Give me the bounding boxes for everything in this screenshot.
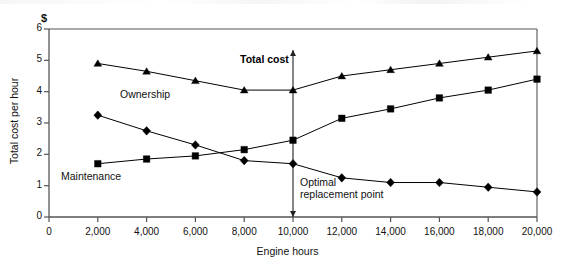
y-tick-label: 6: [18, 22, 42, 34]
x-tick-label: 6,000: [168, 226, 222, 238]
x-tick-label: 12,000: [315, 226, 369, 238]
x-tick-label: 2,000: [71, 226, 125, 238]
y-tick-label: 3: [18, 116, 42, 128]
series-label-ownership: Ownership: [120, 88, 170, 100]
x-tick-label: 0: [22, 226, 76, 238]
optimal-point-arrowhead: [290, 211, 296, 217]
data-point-diamond: [533, 188, 541, 197]
y-tick-label: 4: [18, 85, 42, 97]
data-point-square: [339, 115, 346, 122]
data-point-square: [143, 156, 150, 163]
data-point-square: [485, 87, 492, 94]
data-point-square: [290, 137, 297, 144]
data-point-square: [436, 95, 443, 102]
optimal-point-arrowhead-top: [290, 50, 296, 56]
y-tick-label: 0: [18, 210, 42, 222]
data-point-triangle: [533, 47, 541, 54]
x-tick-label: 4,000: [120, 226, 174, 238]
annotation-optimal-line1: Optimal: [300, 176, 336, 188]
annotation-optimal-line2: replacement point: [300, 188, 415, 200]
series-layer: [94, 47, 541, 196]
y-tick-label: 1: [18, 179, 42, 191]
series-total-cost: [94, 47, 541, 93]
chart-figure: $ Total cost per hour Engine hours Total…: [0, 0, 575, 267]
annotation-layer: [290, 50, 296, 217]
x-axis-title: Engine hours: [0, 245, 575, 257]
x-tick-label: 20,000: [510, 226, 564, 238]
series-label-total-cost: Total cost: [240, 53, 289, 65]
series-line-triangle: [98, 51, 537, 90]
data-point-diamond: [240, 156, 248, 165]
x-tick-label: 14,000: [364, 226, 418, 238]
data-point-diamond: [435, 178, 443, 187]
x-tick-label: 16,000: [412, 226, 466, 238]
data-point-diamond: [191, 141, 199, 150]
data-point-diamond: [484, 183, 492, 192]
data-point-diamond: [94, 111, 102, 120]
data-point-diamond: [289, 159, 297, 168]
series-label-maintenance: Maintenance: [61, 170, 121, 182]
x-tick-label: 18,000: [461, 226, 515, 238]
y-tick-label: 2: [18, 147, 42, 159]
data-point-triangle: [94, 60, 102, 67]
x-tick-label: 8,000: [217, 226, 271, 238]
data-point-square: [387, 106, 394, 113]
y-tick-label: 5: [18, 53, 42, 65]
data-point-square: [95, 160, 102, 167]
data-point-diamond: [143, 127, 151, 136]
data-point-square: [192, 153, 199, 160]
x-tick-label: 10,000: [266, 226, 320, 238]
data-point-square: [241, 146, 248, 153]
annotation-optimal-replacement-point: Optimal replacement point: [300, 176, 415, 200]
axes-layer: [44, 29, 537, 222]
data-point-square: [534, 76, 541, 83]
